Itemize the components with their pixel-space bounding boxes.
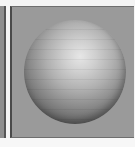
shaded-sphere-image (24, 20, 126, 124)
adjacent-figure-panel (0, 6, 6, 138)
page-margin (0, 138, 135, 147)
figure-panel (10, 6, 134, 138)
